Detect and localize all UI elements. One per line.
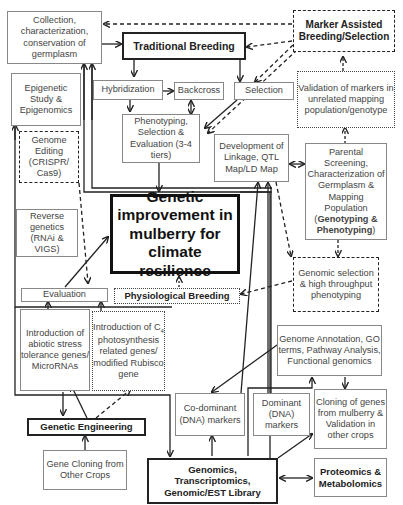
node-linkage-label: Development of Linkage, QTL Map/LD Map — [215, 141, 288, 174]
node-genomics-label: Genomics, Transcriptomics, Genomic/EST L… — [149, 464, 276, 498]
node-selection: Selection — [234, 82, 294, 100]
node-backcross: Backcross — [174, 82, 224, 100]
node-epigenetic-label: Epigenetic Study & Epigenomics — [12, 83, 80, 116]
node-c4-label: Introduction of C4 photosynthesis relate… — [93, 322, 164, 379]
node-collection-label: Collection, characterization, conservati… — [8, 15, 101, 59]
parental-close: ) — [372, 225, 375, 235]
node-cloning-mulberry: Cloning of genes from mulberry & Validat… — [314, 389, 387, 449]
node-genome-editing: Genome Editing (CRISPR/ Cas9) — [19, 131, 79, 183]
node-annotation-label: Genome Annotation, GO terms, Pathway Ana… — [278, 334, 381, 367]
node-traditional-breeding: Traditional Breeding — [122, 32, 246, 60]
node-abiotic-stress: Introduction of abiotic stress tolerance… — [20, 309, 90, 391]
node-validation-markers: Validation of markers in unrelated mappi… — [297, 71, 395, 128]
arrow-genome-editing-evaluation — [79, 183, 88, 283]
node-proteomics: Proteomics & Metabolomics — [314, 458, 387, 497]
node-reverse-genetics: Reverse genetics (RNAi & VIGS) — [16, 209, 78, 257]
node-phenotyping-label: Phenotyping, Selection & Evaluation (3-4… — [123, 116, 199, 160]
node-cloning-mulberry-label: Cloning of genes from mulberry & Validat… — [315, 397, 386, 441]
node-genomic-selection: Genomic selection & high throughput phen… — [293, 257, 379, 312]
node-marker-assisted-breeding: Marker Assisted Breeding/Selection — [293, 10, 395, 52]
parental-bold-text: Genotyping & Phenotyping — [317, 214, 378, 235]
node-genetic-engineering: Genetic Engineering — [27, 418, 146, 436]
node-reverse-label: Reverse genetics (RNAi & VIGS) — [17, 211, 77, 255]
node-hybridization: Hybridization — [93, 80, 163, 100]
node-evaluation-label: Evaluation — [43, 289, 86, 300]
node-physiological-breeding: Physiological Breeding — [114, 288, 240, 304]
node-codominant-label: Co-dominant (DNA) markers — [176, 403, 244, 425]
node-genome-editing-label: Genome Editing (CRISPR/ Cas9) — [20, 135, 78, 179]
arrow-selection-phenotyping — [205, 100, 237, 128]
node-traditional-label: Traditional Breeding — [133, 40, 235, 53]
arrow-codominant-linkage — [241, 183, 258, 393]
center-goal-label: Genetic improvement in mulberry for clim… — [113, 188, 237, 281]
node-backcross-label: Backcross — [178, 85, 220, 96]
arrow-genetic-engineering-c4 — [96, 390, 130, 418]
node-validation-label: Validation of markers in unrelated mappi… — [298, 83, 394, 116]
node-phenotyping: Phenotyping, Selection & Evaluation (3-4… — [122, 114, 200, 163]
node-dominant-label: Dominant (DNA) markers — [254, 398, 309, 431]
node-proteomics-label: Proteomics & Metabolomics — [315, 466, 386, 489]
node-parental-label: Parental Screening, Characterization of … — [306, 147, 386, 235]
c4-subscript: 4 — [161, 328, 164, 334]
arrow-linkage-genomic-selection — [276, 182, 291, 256]
node-gene-cloning: Gene Cloning from Other Crops — [43, 450, 127, 490]
node-parental-screening: Parental Screening, Characterization of … — [305, 143, 387, 240]
node-c4-photosynthesis: Introduction of C4 photosynthesis relate… — [92, 311, 165, 391]
node-gene-cloning-label: Gene Cloning from Other Crops — [44, 459, 126, 481]
c4-text-rest: photosynthesis related genes/ modified R… — [93, 335, 163, 378]
arrow-mas-traditional — [247, 41, 292, 47]
node-abiotic-label: Introduction of abiotic stress tolerance… — [21, 328, 89, 372]
node-genomics: Genomics, Transcriptomics, Genomic/EST L… — [147, 458, 278, 504]
node-genetic-engineering-label: Genetic Engineering — [40, 421, 132, 432]
node-hybridization-label: Hybridization — [101, 84, 154, 95]
node-codominant-markers: Co-dominant (DNA) markers — [175, 393, 245, 436]
node-evaluation: Evaluation — [21, 288, 108, 302]
node-dominant-markers: Dominant (DNA) markers — [253, 393, 310, 436]
c4-text: Introduction of C — [93, 322, 160, 332]
node-mas-label: Marker Assisted Breeding/Selection — [294, 19, 394, 43]
parental-text: Parental Screening, Characterization of … — [307, 147, 384, 223]
node-epigenetic-study: Epigenetic Study & Epigenomics — [11, 73, 81, 126]
arrow-mas-selection — [255, 45, 293, 82]
node-physiological-label: Physiological Breeding — [124, 290, 229, 301]
arrow-genomics-cloning — [278, 434, 312, 458]
node-genome-annotation: Genome Annotation, GO terms, Pathway Ana… — [277, 325, 382, 376]
node-genomic-selection-label: Genomic selection & high throughput phen… — [294, 268, 378, 301]
node-selection-label: Selection — [245, 85, 283, 96]
node-linkage-map: Development of Linkage, QTL Map/LD Map — [214, 134, 289, 182]
node-collection: Collection, characterization, conservati… — [7, 11, 102, 64]
node-center-goal: Genetic improvement in mulberry for clim… — [110, 194, 240, 274]
